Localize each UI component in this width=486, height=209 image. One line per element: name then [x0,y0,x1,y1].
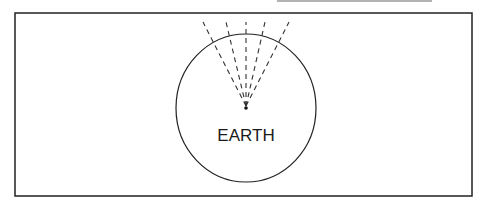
center-point [244,106,248,110]
earth-diagram: EARTH [0,0,486,209]
frame-border [15,13,472,196]
earth-label: EARTH [217,126,274,145]
dashed-rays [203,22,289,106]
